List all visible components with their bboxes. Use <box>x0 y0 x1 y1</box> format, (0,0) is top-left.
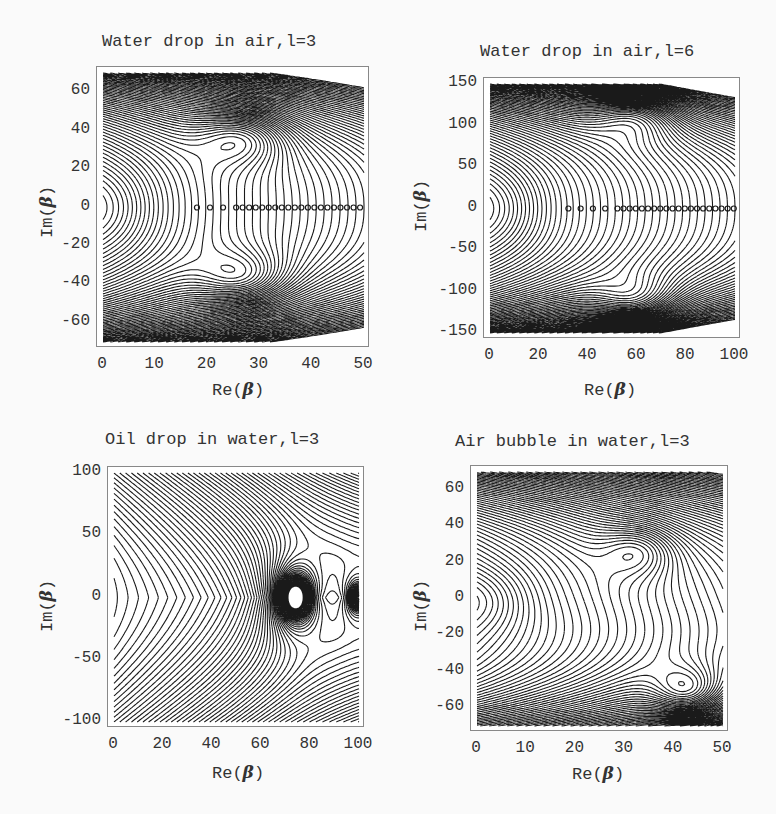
x-axis-label: Re(β) <box>572 763 624 784</box>
x-axis-label: Re(β) <box>212 379 264 400</box>
x-tick-label: 20 <box>549 739 599 757</box>
plot-title: Oil drop in water,l=3 <box>105 430 319 449</box>
y-tick-label: 50 <box>417 156 477 174</box>
y-tick-label: -60 <box>404 697 464 715</box>
y-tick-label: 60 <box>30 81 90 99</box>
x-tick-label: 50 <box>338 355 388 373</box>
x-tick-label: 30 <box>234 355 284 373</box>
x-tick-label: 60 <box>235 735 285 753</box>
x-tick-label: 50 <box>697 739 747 757</box>
y-axis-label: Im(β) <box>36 580 57 632</box>
contour-lines <box>97 67 369 347</box>
y-tick-label: -100 <box>41 711 101 729</box>
x-axis-label: Re(β) <box>584 379 636 400</box>
contour-lines <box>484 78 740 338</box>
x-tick-label: 100 <box>333 735 383 753</box>
y-tick-label: 40 <box>30 120 90 138</box>
x-tick-label: 100 <box>709 346 759 364</box>
x-tick-label: 0 <box>77 355 127 373</box>
y-axis-label: Im(β) <box>410 580 431 632</box>
y-tick-label: -50 <box>417 239 477 257</box>
y-axis-label: Im(β) <box>410 180 431 232</box>
contour-plot-area <box>107 466 364 727</box>
x-tick-label: 40 <box>186 735 236 753</box>
x-tick-label: 40 <box>562 346 612 364</box>
contour-lines <box>471 466 728 731</box>
x-tick-label: 20 <box>181 355 231 373</box>
y-tick-label: 150 <box>417 73 477 91</box>
x-axis-label: Re(β) <box>212 762 264 783</box>
x-tick-label: 0 <box>451 739 501 757</box>
y-tick-label: 40 <box>404 515 464 533</box>
x-tick-label: 40 <box>286 355 336 373</box>
x-tick-label: 80 <box>660 346 710 364</box>
x-tick-label: 10 <box>129 355 179 373</box>
y-tick-label: -150 <box>417 322 477 340</box>
contour-plot-area <box>96 66 369 347</box>
x-tick-label: 40 <box>648 739 698 757</box>
x-tick-label: 20 <box>513 346 563 364</box>
y-tick-label: -60 <box>30 312 90 330</box>
contour-plot-area <box>470 465 728 731</box>
x-tick-label: 30 <box>599 739 649 757</box>
plot-title: Water drop in air,l=3 <box>102 32 316 51</box>
y-tick-label: -50 <box>41 649 101 667</box>
y-tick-label: 20 <box>404 552 464 570</box>
x-tick-label: 0 <box>88 735 138 753</box>
y-tick-label: -40 <box>30 273 90 291</box>
y-tick-label: 50 <box>41 524 101 542</box>
contour-lines <box>108 467 364 727</box>
y-tick-label: -40 <box>404 661 464 679</box>
y-tick-label: -100 <box>417 281 477 299</box>
x-tick-label: 20 <box>137 735 187 753</box>
contour-plot-area <box>483 77 740 338</box>
y-tick-label: 20 <box>30 158 90 176</box>
y-axis-label: Im(β) <box>36 186 57 238</box>
x-tick-label: 60 <box>611 346 661 364</box>
y-tick-label: 60 <box>404 479 464 497</box>
x-tick-label: 80 <box>284 735 334 753</box>
plot-title: Water drop in air,l=6 <box>480 42 694 61</box>
y-tick-label: 100 <box>41 462 101 480</box>
x-tick-label: 10 <box>500 739 550 757</box>
x-tick-label: 0 <box>464 346 514 364</box>
plot-title: Air bubble in water,l=3 <box>455 432 690 451</box>
y-tick-label: 100 <box>417 115 477 133</box>
